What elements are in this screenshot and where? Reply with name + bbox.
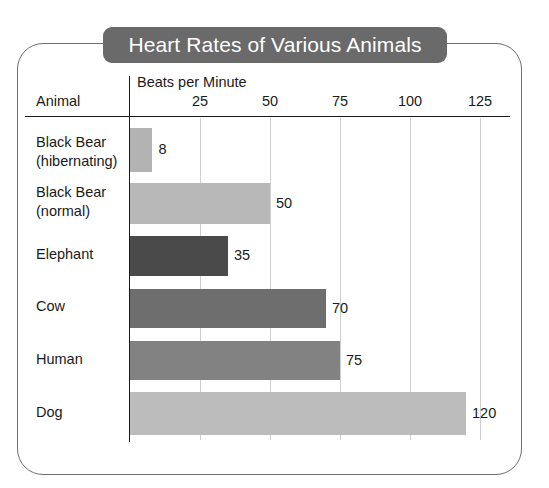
- bar-value-label: 35: [234, 247, 250, 263]
- bar-value-label: 8: [158, 141, 166, 157]
- x-tick-label-75: 75: [332, 93, 348, 109]
- bar-value-label: 70: [332, 300, 348, 316]
- bar: [130, 392, 466, 435]
- bar-value-label: 75: [346, 352, 362, 368]
- bar: [130, 289, 326, 328]
- x-tick-label-125: 125: [468, 93, 492, 109]
- x-tick-label-100: 100: [398, 93, 422, 109]
- chart-plot-area: Animal Beats per Minute 255075100125 Bla…: [0, 0, 549, 488]
- bar-category-label: Dog: [36, 403, 63, 422]
- x-tick-label-25: 25: [192, 93, 208, 109]
- bar-category-label: Black Bear (hibernating): [36, 133, 117, 171]
- bar-value-label: 120: [472, 405, 496, 421]
- bar-category-label: Human: [36, 350, 83, 369]
- bar: [130, 341, 340, 380]
- bar: [130, 183, 270, 224]
- bar-category-label: Cow: [36, 297, 65, 316]
- chart-title-banner: Heart Rates of Various Animals: [103, 27, 447, 63]
- x-axis-title: Beats per Minute: [137, 74, 247, 90]
- bar: [130, 128, 152, 172]
- chart-title: Heart Rates of Various Animals: [128, 33, 421, 57]
- axis-horizontal-rule: [25, 116, 510, 117]
- bar-category-label: Black Bear (normal): [36, 183, 106, 221]
- x-tick-label-50: 50: [262, 93, 278, 109]
- bar-value-label: 50: [276, 195, 292, 211]
- bar-category-label: Elephant: [36, 245, 93, 264]
- y-axis-title: Animal: [36, 93, 80, 109]
- gridline-125: [480, 118, 481, 440]
- bar: [130, 236, 228, 276]
